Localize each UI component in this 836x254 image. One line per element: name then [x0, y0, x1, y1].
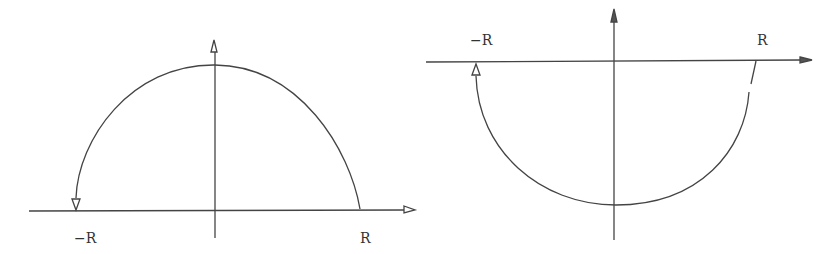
label-minus-r: −R: [74, 230, 96, 246]
arc-arrowhead-icon: [472, 64, 480, 75]
semicircle-arc-top-segment: [751, 61, 756, 84]
label-r: R: [757, 32, 768, 48]
imaginary-axis-arrow-icon: [611, 9, 617, 22]
real-axis-arrow-icon: [800, 57, 812, 63]
semicircle-arc: [476, 76, 749, 205]
figure-upper-contour: [29, 40, 415, 238]
real-axis: [426, 60, 800, 62]
real-axis: [29, 210, 404, 211]
contour-diagrams: [0, 0, 836, 254]
semicircle-arc: [76, 65, 360, 209]
label-minus-r: −R: [470, 32, 492, 48]
real-axis-arrow-icon: [404, 206, 415, 213]
arc-arrowhead-icon: [72, 199, 80, 210]
imaginary-axis-arrow-icon: [211, 40, 217, 52]
label-r: R: [360, 230, 371, 246]
